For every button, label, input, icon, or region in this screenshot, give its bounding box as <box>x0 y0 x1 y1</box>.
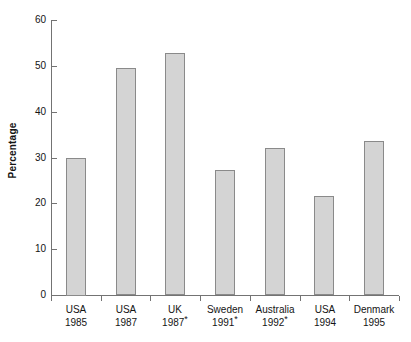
y-tick-label: 60 <box>35 15 46 25</box>
x-category-label: Denmark1995 <box>349 303 399 329</box>
x-category-label: UK1987* <box>150 303 200 329</box>
y-tick-label: 20 <box>35 198 46 208</box>
x-category-label: USA1994 <box>300 303 350 329</box>
x-category-year: 1987* <box>150 316 200 329</box>
bar-chart-figure: Percentage 0102030405060 USA1985USA1987U… <box>0 0 411 342</box>
x-category-footnote-marker: * <box>284 314 288 324</box>
y-tick-label: 30 <box>35 153 46 163</box>
x-tick-mark <box>300 296 301 301</box>
bar <box>66 158 86 296</box>
x-category-label: Sweden1991* <box>200 303 250 329</box>
x-category-year: 1992* <box>250 316 300 329</box>
y-tick-mark <box>52 158 57 159</box>
x-tick-mark <box>150 296 151 301</box>
y-tick-label: 0 <box>40 290 46 300</box>
x-category-label: USA1987 <box>101 303 151 329</box>
bar <box>116 68 136 295</box>
x-category-year: 1994 <box>300 316 350 329</box>
x-category-country: USA <box>101 303 151 316</box>
x-category-footnote-marker: * <box>234 314 238 324</box>
y-tick-label: 40 <box>35 107 46 117</box>
x-category-label: Australia1992* <box>250 303 300 329</box>
y-tick-mark <box>52 295 57 296</box>
x-category-country: Denmark <box>349 303 399 316</box>
bar <box>215 170 235 295</box>
x-category-country: USA <box>51 303 101 316</box>
x-tick-mark <box>349 296 350 301</box>
x-axis-category-labels: USA1985USA1987UK1987*Sweden1991*Australi… <box>51 303 399 341</box>
x-tick-mark <box>200 296 201 301</box>
plot-area: 0102030405060 <box>51 20 399 295</box>
x-tick-mark <box>51 296 52 301</box>
y-tick-mark <box>52 112 57 113</box>
y-tick-mark <box>52 66 57 67</box>
x-category-year: 1987 <box>101 316 151 329</box>
x-category-country: USA <box>300 303 350 316</box>
x-category-year: 1991* <box>200 316 250 329</box>
y-axis-title: Percentage <box>0 0 26 300</box>
x-category-label: USA1985 <box>51 303 101 329</box>
y-axis-title-text: Percentage <box>8 122 19 178</box>
x-tick-mark <box>101 296 102 301</box>
y-tick-label: 50 <box>35 61 46 71</box>
x-category-country: UK <box>150 303 200 316</box>
x-category-year: 1995 <box>349 316 399 329</box>
bar <box>165 53 185 295</box>
y-tick-mark <box>52 20 57 21</box>
bar <box>364 141 384 295</box>
x-category-year: 1985 <box>51 316 101 329</box>
x-tick-mark <box>399 296 400 301</box>
bar <box>265 148 285 295</box>
x-category-country: Sweden <box>200 303 250 316</box>
x-axis-spine <box>51 295 399 296</box>
y-tick-mark <box>52 203 57 204</box>
x-category-footnote-marker: * <box>184 314 188 324</box>
y-tick-mark <box>52 249 57 250</box>
x-tick-mark <box>250 296 251 301</box>
y-tick-label: 10 <box>35 244 46 254</box>
x-category-country: Australia <box>250 303 300 316</box>
bar <box>314 196 334 295</box>
